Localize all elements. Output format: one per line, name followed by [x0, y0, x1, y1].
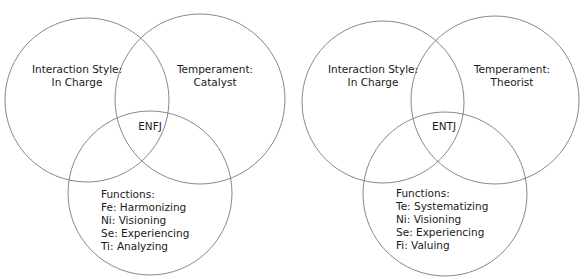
type-code-enfj: ENFJ: [130, 120, 170, 133]
function-item: Fe: Harmonizing: [101, 201, 189, 214]
temperament-value: Catalyst: [175, 76, 255, 89]
interaction-style-heading: Interaction Style:: [318, 63, 428, 76]
temperament-value: Theorist: [472, 76, 552, 89]
venn-circles: [0, 0, 586, 279]
temperament-label-entj: Temperament: Theorist: [472, 63, 552, 89]
functions-label-enfj: Functions: Fe: Harmonizing Ni: Visioning…: [101, 188, 189, 253]
functions-heading: Functions:: [396, 187, 488, 200]
temperament-label-enfj: Temperament: Catalyst: [175, 63, 255, 89]
circle-interaction-style-enfj: [5, 18, 169, 182]
function-item: Ti: Analyzing: [101, 240, 189, 253]
function-item: Ni: Visioning: [101, 214, 189, 227]
temperament-heading: Temperament:: [472, 63, 552, 76]
function-item: Fi: Valuing: [396, 239, 488, 252]
interaction-style-label-enfj: Interaction Style: In Charge: [22, 63, 132, 89]
interaction-style-label-entj: Interaction Style: In Charge: [318, 63, 428, 89]
functions-heading: Functions:: [101, 188, 189, 201]
functions-label-entj: Functions: Te: Systematizing Ni: Visioni…: [396, 187, 488, 252]
temperament-heading: Temperament:: [175, 63, 255, 76]
circle-temperament-enfj: [115, 14, 285, 184]
interaction-style-value: In Charge: [318, 76, 428, 89]
interaction-style-heading: Interaction Style:: [22, 63, 132, 76]
interaction-style-value: In Charge: [22, 76, 132, 89]
function-item: Se: Experiencing: [396, 226, 488, 239]
function-item: Ni: Visioning: [396, 213, 488, 226]
circle-interaction-style-entj: [302, 21, 464, 183]
type-code-entj: ENTJ: [424, 120, 464, 133]
function-item: Se: Experiencing: [101, 227, 189, 240]
function-item: Te: Systematizing: [396, 200, 488, 213]
